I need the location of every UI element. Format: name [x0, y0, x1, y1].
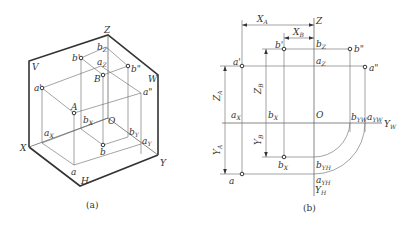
label-dim-yb: YB — [253, 134, 264, 145]
h-plane-outline — [29, 147, 158, 186]
point-b-dprime — [126, 64, 130, 68]
label-a: a — [229, 176, 234, 186]
label-az: aZ — [97, 57, 107, 68]
caption-b: (b) — [303, 203, 316, 213]
point-a-dprime — [363, 65, 367, 69]
label-bx: bX — [83, 115, 94, 126]
label-dim-ya: YA — [212, 144, 223, 155]
label-yw: YW — [384, 119, 397, 130]
label-az: aZ — [316, 56, 326, 67]
label-b: b — [100, 147, 106, 157]
point-B — [101, 73, 105, 77]
label-by: bY — [129, 127, 140, 138]
label-ax: aX — [44, 128, 54, 139]
label-b-prime: b' — [72, 53, 80, 63]
label-z: Z — [103, 25, 111, 35]
label-b-prime: b' — [275, 40, 283, 50]
label-bz: bZ — [316, 39, 327, 50]
label-byh: bYH — [316, 160, 332, 171]
label-origin: O — [108, 116, 116, 126]
label-a-prime: a' — [233, 57, 241, 67]
label-z: Z — [315, 16, 323, 26]
label-origin: O — [316, 110, 324, 120]
label-B: B — [93, 74, 101, 84]
label-b-h: bX — [278, 160, 289, 171]
label-b-dprime: b" — [131, 64, 141, 74]
label-dim-zb: ZB — [253, 83, 264, 95]
label-dim-xb: XB — [292, 27, 304, 38]
label-ayw: aYW — [367, 112, 383, 123]
label-v-plane: V — [32, 62, 40, 72]
point-a — [240, 172, 244, 176]
projection-diagrams: Z V W X Y H O a' A b' B b" a" b a bZ aZ … — [0, 0, 407, 226]
label-a-dprime: a" — [143, 87, 153, 97]
figure-b-orthographic-projection: Z O YW YH XA XB ZA YA ZB YB a' a" b' b" … — [212, 14, 397, 213]
label-dim-xa: XA — [256, 14, 268, 25]
label-ay: aY — [142, 136, 152, 147]
label-h-plane: H — [80, 176, 89, 186]
label-b-dprime: b" — [354, 44, 364, 54]
point-b — [282, 155, 286, 159]
figure-a-3d-projection: Z V W X Y H O a' A b' B b" a" b a bZ aZ … — [19, 25, 167, 210]
label-bx: bX — [268, 110, 279, 121]
label-x: X — [19, 143, 27, 153]
label-A: A — [70, 102, 78, 112]
label-w-plane: W — [148, 74, 158, 84]
label-ayh: aYH — [316, 175, 331, 186]
label-dim-za: ZA — [212, 90, 223, 102]
label-a: a — [71, 167, 76, 177]
label-ax: aX — [231, 110, 241, 121]
caption-a: (a) — [86, 200, 98, 210]
label-yh: YH — [315, 185, 327, 196]
point-b-dprime — [348, 47, 352, 51]
arc-b — [314, 123, 350, 157]
label-a-prime: a' — [34, 83, 42, 93]
label-a-dprime: a" — [369, 63, 379, 73]
label-bz: bZ — [97, 42, 108, 53]
label-y: Y — [160, 158, 167, 168]
